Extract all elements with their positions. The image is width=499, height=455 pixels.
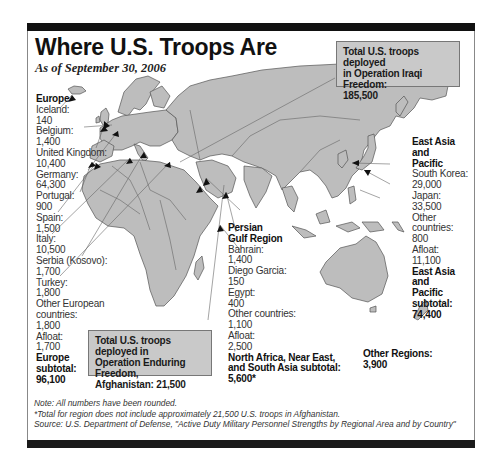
page-title: Where U.S. Troops Are: [35, 34, 277, 61]
persian-gulf-heading-2: Gulf Region: [228, 234, 368, 245]
diego-garcia-label: Diego Garcia:: [228, 266, 368, 277]
asterisk-note: *Total for region does not include appro…: [34, 409, 456, 420]
europe-iceland-label: Iceland:: [36, 105, 116, 116]
gulf-afloat-value: 2,500: [228, 342, 368, 353]
east-asia-heading-1: East Asia and: [412, 137, 474, 159]
iraq-callout-value: 185,500: [343, 90, 453, 101]
east-asia-legend: East Asia and Pacific South Korea: 29,00…: [412, 137, 474, 321]
persian-gulf-legend: Persian Gulf Region Bahrain: 1,400 Diego…: [228, 223, 368, 385]
asia-subtotal-value: 74,400: [412, 310, 474, 321]
iraq-callout: Total U.S. troops deployed in Operation …: [336, 41, 460, 87]
asia-subtotal-label-2: Pacific subtotal:: [412, 288, 474, 310]
europe-uk-value: 10,400: [36, 159, 116, 170]
source-note: Source: U.S. Department of Defense, "Act…: [34, 419, 456, 430]
other-regions-legend: Other Regions: 3,900: [363, 349, 453, 371]
japan-value: 33,500: [412, 202, 474, 213]
footnotes: Note: All numbers have been rounded. *To…: [34, 398, 456, 430]
europe-serbia-value: 1,700: [36, 267, 116, 278]
europe-spain-label: Spain:: [36, 213, 116, 224]
rounding-note: Note: All numbers have been rounded.: [34, 398, 456, 409]
europe-other-value: 1,800: [36, 321, 116, 332]
iraq-callout-line2: in Operation Iraqi Freedom:: [343, 68, 453, 90]
egypt-label: Egypt:: [228, 288, 368, 299]
asia-subtotal-label-1: East Asia and: [412, 267, 474, 289]
europe-legend: Europe Iceland: 140 Belgium: 1,400 Unite…: [36, 94, 116, 386]
asia-other-label: Other countries:: [412, 213, 474, 235]
other-regions-value: 3,900: [363, 360, 453, 371]
iraq-callout-line1: Total U.S. troops deployed: [343, 46, 453, 68]
europe-subtotal-value: 96,100: [36, 375, 116, 386]
asia-afloat-value: 11,100: [412, 256, 474, 267]
page-subtitle: As of September 30, 2006: [35, 61, 166, 76]
gulf-subtotal-value: 5,600*: [228, 374, 368, 385]
